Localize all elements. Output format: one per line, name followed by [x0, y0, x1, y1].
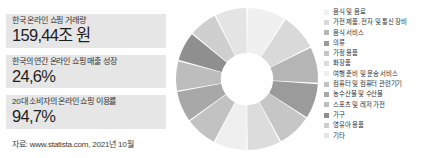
legend-label: 여행 준비 및 운송 서비스: [333, 71, 398, 77]
legend-label: 가정 용품: [333, 50, 358, 56]
legend-item[interactable]: 음식 서비스: [324, 28, 438, 38]
stat-card: 한국의 연간 온라인 쇼핑 매출 성장 24,6%: [6, 55, 166, 89]
legend-label: 가구: [333, 112, 345, 118]
legend-swatch-icon: [324, 61, 329, 66]
legend-label: 가전 제품, 전자 및 통신 장비: [333, 19, 407, 25]
stat-label: 한국 온라인 쇼핑 거래량: [12, 17, 160, 25]
legend-label: 기타: [333, 133, 345, 139]
legend-item[interactable]: 의류: [324, 38, 438, 48]
legend-label: 음식 및 음료: [333, 9, 366, 15]
stat-value: 24,6%: [12, 68, 160, 85]
legend-swatch-icon: [324, 82, 329, 87]
legend-item[interactable]: 음식 및 음료: [324, 7, 438, 17]
legend-swatch-icon: [324, 41, 329, 46]
legend-swatch-icon: [324, 10, 329, 15]
stat-card: 한국 온라인 쇼핑 거래량 159,44조 원: [6, 14, 166, 48]
stats-panel: 한국 온라인 쇼핑 거래량 159,44조 원 한국의 연간 온라인 쇼핑 매출…: [0, 0, 172, 158]
stat-value: 94,7%: [12, 108, 160, 125]
donut-chart: [172, 0, 322, 158]
legend-swatch-icon: [324, 92, 329, 97]
legend-swatch-icon: [324, 30, 329, 35]
legend-label: 농수산물 및 수산물: [333, 91, 383, 97]
chart-legend: 음식 및 음료가전 제품, 전자 및 통신 장비음식 서비스의류가정 용품화장품…: [322, 0, 440, 158]
legend-swatch-icon: [324, 102, 329, 107]
legend-label: 컴퓨터 및 컴퓨터 관련기기: [333, 81, 402, 87]
legend-swatch-icon: [324, 133, 329, 138]
legend-item[interactable]: 가구: [324, 110, 438, 120]
legend-item[interactable]: 화장품: [324, 58, 438, 68]
legend-item[interactable]: 여행 준비 및 운송 서비스: [324, 69, 438, 79]
stat-label: 20대 소비자의 온라인 쇼핑 이용률: [12, 98, 160, 106]
stat-card: 20대 소비자의 온라인 쇼핑 이용률 94,7%: [6, 95, 166, 129]
legend-label: 영유아 용품: [333, 122, 364, 128]
legend-label: 음식 서비스: [333, 30, 364, 36]
legend-swatch-icon: [324, 123, 329, 128]
legend-item[interactable]: 영유아 용품: [324, 120, 438, 130]
infographic-root: 한국 온라인 쇼핑 거래량 159,44조 원 한국의 연간 온라인 쇼핑 매출…: [0, 0, 440, 158]
legend-swatch-icon: [324, 51, 329, 56]
legend-label: 스포츠 및 레저 가전: [333, 102, 385, 108]
legend-item[interactable]: 농수산물 및 수산물: [324, 89, 438, 99]
legend-swatch-icon: [324, 113, 329, 118]
stat-value: 159,44조 원: [12, 27, 160, 44]
legend-item[interactable]: 가전 제품, 전자 및 통신 장비: [324, 17, 438, 27]
legend-item[interactable]: 스포츠 및 레저 가전: [324, 100, 438, 110]
legend-item[interactable]: 컴퓨터 및 컴퓨터 관련기기: [324, 79, 438, 89]
stat-label: 한국의 연간 온라인 쇼핑 매출 성장: [12, 58, 160, 66]
legend-label: 화장품: [333, 60, 351, 66]
donut-chart-svg: [174, 6, 320, 152]
legend-label: 의류: [333, 40, 345, 46]
source-note: 자료: www.statista.com, 2021년 10월: [6, 138, 166, 149]
legend-item[interactable]: 가정 용품: [324, 48, 438, 58]
legend-swatch-icon: [324, 20, 329, 25]
legend-swatch-icon: [324, 71, 329, 76]
legend-item[interactable]: 기타: [324, 131, 438, 141]
